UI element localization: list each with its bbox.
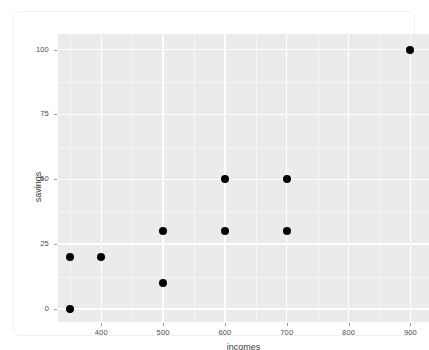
y-tick-mark	[54, 244, 57, 245]
x-tick-label: 700	[280, 328, 293, 337]
gridline-minor-horizontal	[58, 147, 429, 148]
gridline-minor-horizontal	[58, 212, 429, 213]
y-tick-mark	[54, 50, 57, 51]
x-tick-label: 400	[95, 328, 108, 337]
gridline-major-horizontal	[58, 179, 429, 180]
x-tick-mark	[349, 323, 350, 326]
gridline-major-vertical	[410, 34, 411, 322]
figure-card: 0255075100400500600700800900 incomes sav…	[13, 11, 415, 336]
data-point	[159, 227, 167, 235]
data-point	[66, 253, 74, 261]
x-tick-mark	[225, 323, 226, 326]
x-tick-label: 500	[157, 328, 170, 337]
x-tick-mark	[287, 323, 288, 326]
x-axis-title: incomes	[58, 342, 429, 350]
x-tick-mark	[101, 323, 102, 326]
data-point	[406, 46, 414, 54]
data-point	[159, 279, 167, 287]
data-point	[283, 175, 291, 183]
gridline-major-horizontal	[58, 243, 429, 244]
x-tick-label: 800	[342, 328, 355, 337]
x-tick-label: 900	[404, 328, 417, 337]
gridline-minor-horizontal	[58, 82, 429, 83]
plot-panel	[58, 34, 429, 322]
data-point	[221, 227, 229, 235]
y-tick-mark	[54, 309, 57, 310]
x-tick-mark	[410, 323, 411, 326]
y-tick-mark	[54, 179, 57, 180]
gridline-major-horizontal	[58, 49, 429, 50]
gridline-minor-horizontal	[58, 277, 429, 278]
y-tick-mark	[54, 114, 57, 115]
gridline-major-vertical	[348, 34, 349, 322]
x-tick-mark	[163, 323, 164, 326]
gridline-major-vertical	[101, 34, 102, 322]
data-point	[97, 253, 105, 261]
data-point	[66, 305, 74, 313]
data-point	[283, 227, 291, 235]
gridline-major-horizontal	[58, 308, 429, 309]
data-point	[221, 175, 229, 183]
y-axis-title-text: savings	[33, 172, 43, 203]
x-tick-label: 600	[218, 328, 231, 337]
y-axis-title: savings	[23, 12, 54, 350]
gridline-major-horizontal	[58, 114, 429, 115]
